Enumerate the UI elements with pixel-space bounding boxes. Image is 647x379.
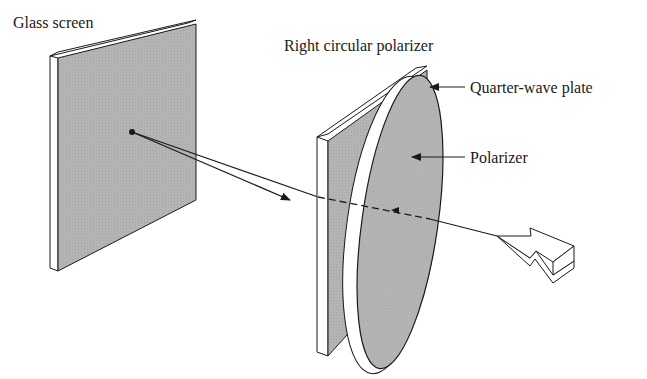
polarizer-label: Polarizer xyxy=(470,150,528,166)
right-circular-polarizer-label: Right circular polarizer xyxy=(284,38,433,54)
right-circular-polarizer xyxy=(317,66,458,379)
diagram-canvas xyxy=(0,0,647,379)
light-source-arrow-icon xyxy=(497,228,574,283)
glass-screen xyxy=(50,20,196,271)
glass-screen-label: Glass screen xyxy=(13,15,93,31)
quarter-wave-plate-label: Quarter-wave plate xyxy=(470,80,593,96)
